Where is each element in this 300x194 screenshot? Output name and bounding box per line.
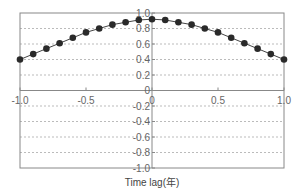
data-point — [162, 17, 169, 24]
data-point — [149, 16, 156, 23]
autocorrelation-chart: 1.00.80.60.40.20-0.2-0.4-0.6-0.8-1.0 -1.… — [0, 0, 300, 194]
y-tick-label: 0.2 — [136, 70, 150, 81]
data-point — [83, 29, 90, 36]
data-point — [122, 19, 129, 26]
data-point — [254, 45, 261, 52]
x-tick-label: 0.5 — [211, 95, 225, 106]
data-point — [56, 40, 63, 47]
y-tick-label: -0.4 — [133, 116, 151, 127]
y-tick-label: 0.6 — [136, 39, 150, 50]
data-point — [188, 21, 195, 28]
y-tick-label: -0.8 — [133, 147, 151, 158]
data-point — [202, 25, 209, 32]
data-point — [175, 19, 182, 26]
x-tick-label: 1.0 — [277, 95, 291, 106]
data-point — [228, 35, 235, 42]
y-tick-label: -0.6 — [133, 132, 151, 143]
y-tick-label: 0.8 — [136, 23, 150, 34]
data-point — [281, 56, 288, 63]
data-point — [215, 29, 222, 36]
data-point — [17, 56, 24, 63]
data-point — [43, 45, 50, 52]
data-point — [30, 51, 37, 58]
x-tick-label: -1.0 — [11, 95, 29, 106]
data-point — [268, 51, 275, 58]
x-tick-label: -0.5 — [77, 95, 95, 106]
data-point — [96, 25, 103, 32]
x-axis-label: Time lag(年) — [125, 176, 180, 188]
data-point — [70, 35, 77, 42]
data-point — [109, 21, 116, 28]
y-tick-label: 0.4 — [136, 54, 150, 65]
data-point — [136, 17, 143, 24]
x-tick-label: 0 — [149, 95, 155, 106]
data-point — [241, 40, 248, 47]
y-tick-label: -1.0 — [133, 163, 151, 174]
y-tick-label: -0.2 — [133, 101, 151, 112]
